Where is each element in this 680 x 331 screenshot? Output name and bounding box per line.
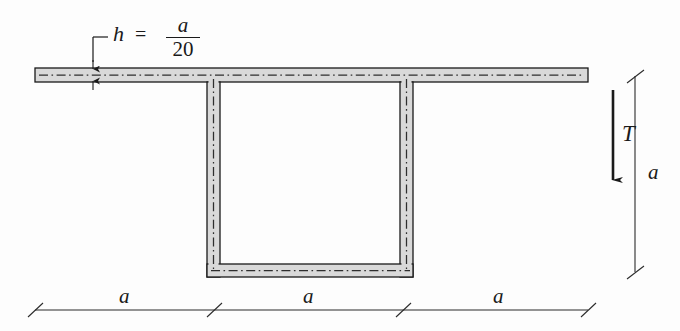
thickness-symbol-h: h [113,23,124,45]
section-walls [35,68,588,277]
thickness-equals-sign: = [135,24,146,44]
torque-label: T [622,122,635,145]
vertical-dimension [627,70,644,279]
thickness-fraction-denominator: 20 [166,38,200,60]
thickness-fraction: a 20 [166,15,200,60]
cross-section-drawing [0,0,680,331]
bottom-dimension-label-1: a [303,286,314,307]
junction-cleanup [209,81,412,266]
bottom-dimension-label-2: a [493,286,504,307]
thickness-fraction-numerator: a [166,15,200,37]
bottom-dimension-label-0: a [119,286,130,307]
wall-centerlines [39,75,584,271]
thickness-callout-leader [93,37,108,62]
figure-canvas: h = a 20 T a a a a [0,0,680,331]
vertical-dimension-label: a [648,162,659,183]
